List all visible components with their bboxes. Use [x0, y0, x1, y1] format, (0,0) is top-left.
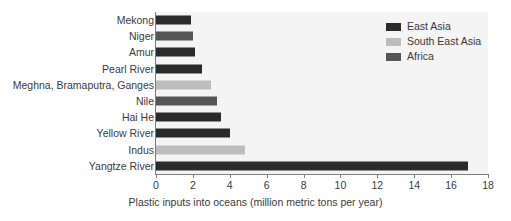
- x-tick-label: 10: [335, 179, 347, 191]
- legend-label: East Asia: [407, 21, 451, 32]
- x-axis-title: Plastic inputs into oceans (million metr…: [0, 196, 511, 208]
- legend-label: Africa: [407, 51, 434, 62]
- x-tick-label: 2: [190, 179, 196, 191]
- x-tick-mark: [230, 174, 231, 178]
- bar: [156, 64, 202, 73]
- category-label: Indus: [128, 144, 154, 155]
- category-label: Niger: [129, 31, 154, 42]
- x-tick-mark: [488, 174, 489, 178]
- bar-row: Nile: [0, 93, 511, 109]
- x-tick-label: 18: [482, 179, 494, 191]
- x-tick-label: 16: [445, 179, 457, 191]
- category-label: Yellow River: [97, 128, 154, 139]
- category-label: Pearl River: [102, 63, 154, 74]
- legend: East AsiaSouth East AsiaAfrica: [386, 20, 481, 65]
- x-tick-mark: [193, 174, 194, 178]
- legend-item: South East Asia: [386, 35, 481, 48]
- x-tick-label: 0: [153, 179, 159, 191]
- bar: [156, 129, 230, 138]
- x-tick-mark: [304, 174, 305, 178]
- bar: [156, 32, 193, 41]
- bar: [156, 113, 221, 122]
- x-tick-mark: [156, 174, 157, 178]
- bar: [156, 48, 195, 57]
- category-label: Hai He: [122, 112, 154, 123]
- legend-swatch-icon: [386, 23, 401, 31]
- category-label: Yangtze River: [89, 160, 154, 171]
- bar: [156, 145, 245, 154]
- category-label: Amur: [129, 47, 154, 58]
- bar: [156, 80, 211, 89]
- x-axis-ticks: 024681012141618: [0, 174, 511, 196]
- x-tick-mark: [451, 174, 452, 178]
- x-tick-mark: [267, 174, 268, 178]
- bar-row: Yangtze River: [0, 158, 511, 174]
- x-tick-label: 8: [301, 179, 307, 191]
- category-label: Mekong: [117, 15, 154, 26]
- legend-item: Africa: [386, 50, 481, 63]
- bar-row: Hai He: [0, 109, 511, 125]
- x-tick-mark: [340, 174, 341, 178]
- bar-row: Meghna, Bramaputra, Ganges: [0, 77, 511, 93]
- bar-row: Indus: [0, 142, 511, 158]
- x-tick-mark: [414, 174, 415, 178]
- category-label: Nile: [136, 96, 154, 107]
- legend-label: South East Asia: [407, 36, 481, 47]
- category-label: Meghna, Bramaputra, Ganges: [13, 79, 154, 90]
- x-tick-label: 6: [264, 179, 270, 191]
- bar-row: Yellow River: [0, 125, 511, 141]
- bar: [156, 97, 217, 106]
- x-tick-mark: [377, 174, 378, 178]
- x-tick-label: 12: [371, 179, 383, 191]
- x-tick-label: 14: [408, 179, 420, 191]
- x-tick-label: 4: [227, 179, 233, 191]
- bar: [156, 161, 468, 170]
- legend-swatch-icon: [386, 38, 401, 46]
- bar-chart: MekongNigerAmurPearl RiverMeghna, Bramap…: [0, 0, 511, 221]
- legend-item: East Asia: [386, 20, 481, 33]
- bar: [156, 16, 191, 25]
- legend-swatch-icon: [386, 53, 401, 61]
